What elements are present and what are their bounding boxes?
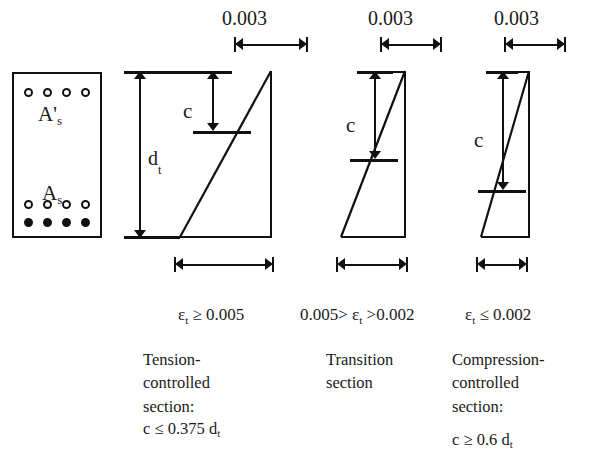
case2-top-strain-dimension	[380, 38, 442, 51]
tension-bar-row1	[81, 200, 90, 209]
case1-bottom-strain-dimension	[174, 258, 274, 271]
case1-strain-diagonal	[178, 69, 274, 239]
case3-top-strain-label: 0.003	[494, 8, 539, 28]
tension-bar-row2	[24, 218, 33, 227]
case1-top-strain-dimension	[234, 38, 308, 51]
case3-strain-diagonal	[479, 69, 533, 239]
case3-bottom-strain-dimension	[476, 258, 528, 271]
case1-strain-condition: εt ≥ 0.005	[178, 306, 244, 323]
compression-steel-label: A's	[38, 104, 62, 125]
case2-strain-diagonal	[339, 69, 409, 239]
tension-steel-label: As	[42, 183, 62, 204]
compression-bar	[43, 88, 52, 97]
case1-dt-label: dt	[148, 148, 161, 172]
beam-cross-section	[12, 72, 102, 238]
tension-bar-row2	[62, 218, 71, 227]
case3-top-strain-dimension	[504, 38, 566, 51]
case2-top-strain-label: 0.003	[368, 8, 413, 28]
case3-strain-condition: εt ≤ 0.002	[465, 306, 531, 323]
case3-caption: Compression- controlled section:	[452, 348, 545, 418]
strain-distribution-figure: A's As dt c 0.003 c 0	[0, 0, 597, 462]
case2-bottom-strain-dimension	[336, 258, 408, 271]
case1-top-strain-label: 0.003	[222, 8, 267, 28]
case1-bottom-level-line	[124, 236, 180, 239]
tension-bar-row1	[24, 200, 33, 209]
compression-bar	[24, 88, 33, 97]
case2-caption: Transition section	[326, 348, 393, 395]
tension-bar-row2	[43, 218, 52, 227]
case3-caption-formula: c ≥ 0.6 dt	[452, 432, 513, 449]
case2-strain-condition: 0.005> εt >0.002	[300, 306, 414, 323]
case1-caption: Tension- controlled section:	[143, 348, 210, 418]
case1-caption-formula: c ≤ 0.375 dt	[143, 421, 220, 438]
compression-bar	[81, 88, 90, 97]
case1-dt-dimension	[134, 71, 146, 238]
compression-bar	[62, 88, 71, 97]
tension-bar-row1	[62, 200, 71, 209]
tension-bar-row2	[81, 218, 90, 227]
